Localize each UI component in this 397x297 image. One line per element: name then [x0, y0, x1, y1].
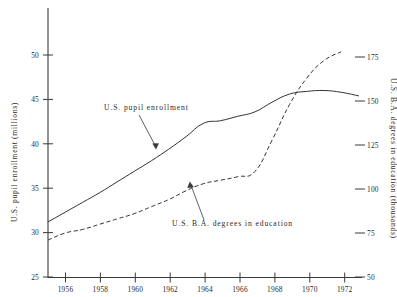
x-tick-label-1960: 1960: [128, 285, 144, 294]
annotation-label-pupil-enrollment: U.S. pupil enrollment: [104, 103, 189, 112]
series-line-ba-degrees: [48, 52, 341, 240]
annotation-arrowhead-pupil-enrollment: [152, 143, 159, 149]
right-tick-label-75: 75: [367, 229, 375, 238]
right-tick-label-50: 50: [367, 273, 375, 282]
annotation-leader-pupil-enrollment: [139, 115, 156, 147]
x-tick-label-1968: 1968: [267, 285, 283, 294]
left-tick-label-35: 35: [31, 184, 39, 193]
x-tick-label-1958: 1958: [93, 285, 109, 294]
series-line-pupil-enrollment: [48, 90, 359, 221]
right-tick-label-175: 175: [367, 53, 379, 62]
left-axis-title: U.S. pupil enrollment (millions): [10, 102, 19, 222]
right-tick-label-150: 150: [367, 97, 379, 106]
annotation-label-ba-degrees: U.S. B.A. degrees in education: [172, 219, 293, 228]
right-axis-title: U.S. B.A. degrees in education (thousand…: [389, 78, 397, 239]
right-axis-tick-labels: 175 150 125 100 75 50: [367, 53, 379, 282]
annotation-pupil-enrollment: U.S. pupil enrollment: [104, 103, 189, 150]
left-axis-tick-labels: 50 45 40 35 30 25: [31, 51, 39, 282]
right-axis-ticks: [355, 57, 365, 277]
left-tick-label-40: 40: [31, 140, 39, 149]
left-tick-label-50: 50: [31, 51, 39, 60]
chart-figure: 50 45 40 35 30 25 U.S. pupil enrollment …: [0, 0, 397, 297]
x-tick-label-1964: 1964: [197, 285, 213, 294]
left-tick-label-45: 45: [31, 95, 39, 104]
left-tick-label-25: 25: [31, 273, 39, 282]
right-tick-label-125: 125: [367, 141, 379, 150]
left-tick-label-30: 30: [31, 228, 39, 237]
annotation-leader-ba-degrees: [191, 184, 205, 220]
x-tick-label-1962: 1962: [162, 285, 178, 294]
x-tick-label-1972: 1972: [337, 285, 353, 294]
x-axis-tick-labels: 1956 1958 1960 1962 1964 1966 1968 1970 …: [58, 285, 353, 294]
right-tick-label-100: 100: [367, 185, 379, 194]
x-tick-label-1970: 1970: [302, 285, 318, 294]
x-tick-label-1966: 1966: [232, 285, 248, 294]
chart-canvas: 50 45 40 35 30 25 U.S. pupil enrollment …: [0, 0, 397, 297]
annotation-arrowhead-ba-degrees: [187, 182, 194, 188]
x-tick-label-1956: 1956: [58, 285, 74, 294]
